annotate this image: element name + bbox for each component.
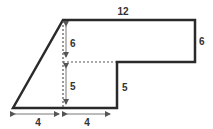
right-height-label: 6 — [199, 36, 205, 47]
bottom-right-width-label: 4 — [84, 117, 90, 128]
shape-outline — [13, 20, 195, 108]
step-height-label: 5 — [122, 82, 128, 93]
inner-lower-height-label: 5 — [70, 81, 76, 92]
top-width-label: 12 — [117, 6, 129, 17]
inner-upper-height-label: 6 — [70, 38, 76, 49]
bottom-left-width-label: 4 — [35, 117, 41, 128]
composite-shape-diagram: 12 6 6 5 5 4 4 — [0, 0, 213, 129]
